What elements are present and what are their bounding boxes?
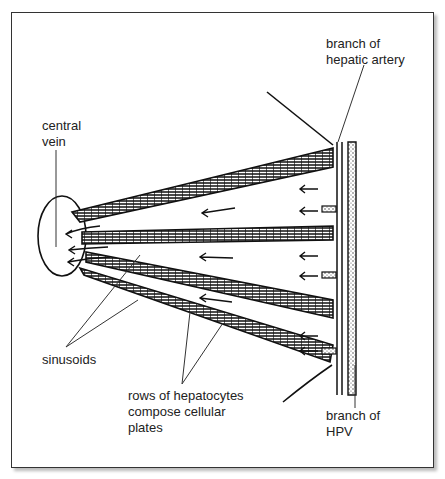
label-hepatic-artery: branch of hepatic artery: [326, 36, 405, 68]
lobule-border-top: [267, 92, 333, 145]
label-central-vein: central vein: [42, 118, 81, 150]
central-vein: [38, 196, 86, 276]
hepatic-artery-branch: [337, 142, 342, 395]
label-sinusoids: sinusoids: [42, 352, 96, 368]
portal-vein-branch: [348, 142, 356, 395]
lobule-border-bottom: [283, 365, 332, 402]
label-hpv: branch of HPV: [326, 408, 380, 440]
label-hepatocytes: rows of hepatocytes compose cellular pla…: [128, 388, 244, 436]
